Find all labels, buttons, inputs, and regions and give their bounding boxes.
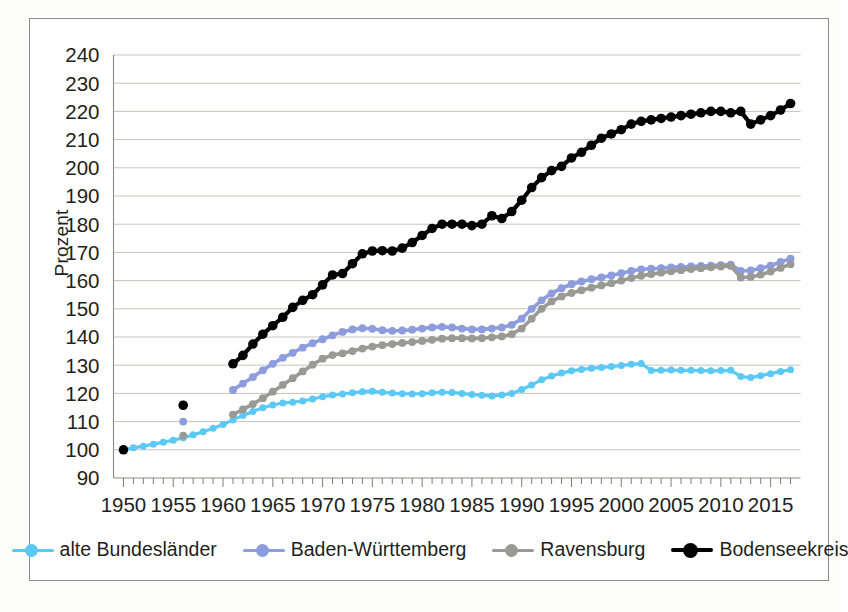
series-marker	[200, 428, 207, 435]
series-marker	[548, 372, 555, 379]
series-marker	[568, 289, 576, 297]
series-marker	[587, 140, 597, 150]
series-marker	[626, 119, 636, 129]
series-marker	[249, 408, 256, 415]
series-marker	[678, 367, 685, 374]
series-marker	[258, 329, 268, 339]
series-marker	[707, 367, 714, 374]
series-marker	[408, 338, 416, 346]
series-marker	[299, 344, 307, 352]
y-tick-label: 130	[65, 354, 99, 377]
series-marker	[757, 372, 764, 379]
series-marker	[647, 270, 655, 278]
series-marker	[447, 219, 457, 229]
series-marker	[239, 380, 247, 388]
series-marker	[319, 393, 326, 400]
series-marker	[737, 274, 745, 282]
y-tick-label: 200	[65, 156, 99, 179]
series-marker	[706, 107, 716, 117]
series-marker	[617, 269, 625, 277]
series-marker	[736, 107, 746, 117]
series-marker	[249, 373, 257, 381]
series-marker	[160, 439, 167, 446]
series-marker	[488, 392, 495, 399]
series-marker	[508, 390, 515, 397]
legend-item[interactable]: Baden-Württemberg	[243, 540, 467, 560]
series-marker	[597, 274, 605, 282]
legend-item[interactable]: Bodenseekreis	[671, 540, 848, 560]
series-marker	[359, 388, 366, 395]
y-tick-label: 120	[65, 382, 99, 405]
legend-marker-dot	[25, 544, 38, 557]
series-marker	[588, 275, 596, 283]
series-marker	[429, 389, 436, 396]
legend-item-label: Baden-Württemberg	[291, 540, 467, 560]
series-marker	[607, 279, 615, 287]
series-marker	[339, 328, 347, 336]
series-marker	[737, 373, 744, 380]
legend-marker-dot	[256, 544, 269, 557]
series-marker	[378, 341, 386, 349]
series-marker	[648, 367, 655, 374]
series-marker	[359, 324, 367, 332]
series-marker	[229, 386, 237, 394]
line-marker-icon	[671, 543, 713, 557]
series-marker	[727, 262, 735, 270]
series-marker	[767, 268, 775, 276]
series-marker	[278, 312, 288, 322]
series-marker	[707, 263, 715, 271]
series-marker	[638, 360, 645, 367]
series-marker	[627, 267, 635, 275]
series-marker	[766, 111, 776, 121]
y-tick-label: 160	[65, 269, 99, 292]
legend-item[interactable]: alte Bundesländer	[12, 540, 217, 560]
series-marker	[578, 366, 585, 373]
series-marker	[359, 345, 367, 353]
series-marker	[339, 390, 346, 397]
series-marker	[399, 390, 406, 397]
legend-item[interactable]: Ravensburg	[492, 540, 645, 560]
series-marker	[229, 411, 237, 419]
series-marker	[538, 376, 545, 383]
y-tick-label: 240	[65, 43, 99, 66]
series-marker	[668, 366, 675, 373]
series-marker	[677, 266, 685, 274]
series-marker	[458, 334, 466, 342]
x-tick-label: 1995	[549, 493, 595, 516]
series-marker	[538, 305, 546, 313]
series-marker	[309, 339, 317, 347]
series-marker	[547, 166, 557, 176]
y-tick-label: 100	[65, 438, 99, 461]
series-marker	[378, 246, 388, 256]
series-marker	[478, 325, 486, 333]
series-marker	[598, 364, 605, 371]
series-marker	[179, 432, 187, 440]
series-marker	[339, 349, 347, 357]
series-marker	[309, 361, 317, 369]
series-marker	[468, 391, 475, 398]
series-marker	[697, 367, 704, 374]
series-marker	[368, 246, 378, 256]
series-marker	[428, 324, 436, 332]
series-marker	[687, 265, 695, 273]
series-marker	[777, 264, 785, 272]
y-tick-label: 230	[65, 72, 99, 95]
legend-marker-dot	[505, 544, 518, 557]
series-marker	[369, 388, 376, 395]
series-marker	[387, 246, 397, 256]
series-marker	[238, 351, 248, 361]
series-marker	[338, 269, 348, 279]
series-marker	[716, 107, 726, 117]
series-marker	[437, 219, 447, 229]
series-marker	[179, 418, 187, 426]
series-marker	[259, 394, 267, 402]
series-marker	[349, 389, 356, 396]
series-marker	[388, 327, 396, 335]
series-marker	[228, 359, 238, 369]
series-marker	[349, 347, 357, 355]
series-marker	[746, 119, 756, 129]
series-marker	[558, 284, 566, 292]
